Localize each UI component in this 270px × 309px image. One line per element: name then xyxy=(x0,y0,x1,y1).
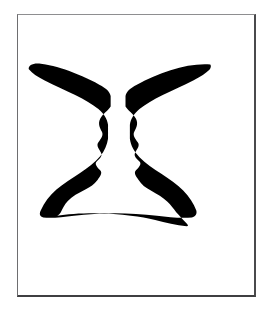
plate-inner-canvas: Rubin's Vase figure-ground reversible il… xyxy=(18,15,254,295)
picture-frame: Rubin's Vase figure-ground reversible il… xyxy=(17,14,256,297)
vase-path xyxy=(29,64,211,227)
rubin-vase-silhouette xyxy=(18,15,254,295)
illusion-image: Rubin's Vase figure-ground reversible il… xyxy=(0,0,270,309)
